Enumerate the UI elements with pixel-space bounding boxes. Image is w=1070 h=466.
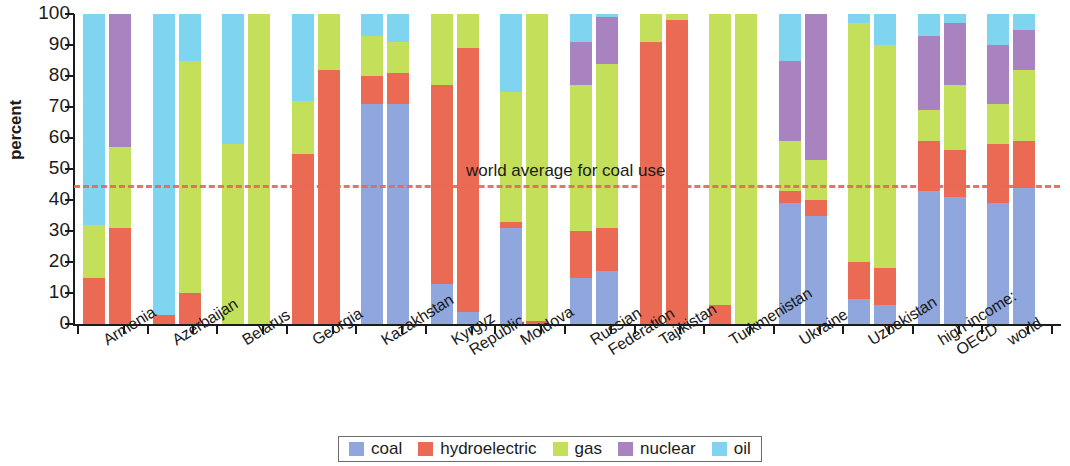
- bar-segment-gas: [848, 23, 870, 262]
- bar: [666, 14, 688, 324]
- bar-segment-gas: [944, 85, 966, 150]
- bar-segment-hydroelectric: [779, 191, 801, 203]
- legend-item-oil: oil: [712, 439, 751, 459]
- bar-segment-gas: [83, 225, 105, 278]
- bar-segment-gas: [179, 61, 201, 294]
- legend-item-hydroelectric: hydroelectric: [418, 439, 536, 459]
- bar-segment-hydroelectric: [83, 278, 105, 325]
- bar-segment-gas: [640, 14, 662, 42]
- bar-segment-coal: [944, 197, 966, 324]
- bar: [1013, 14, 1035, 324]
- bar-segment-oil: [292, 14, 314, 101]
- legend-swatch-oil: [712, 442, 727, 456]
- bar-segment-hydroelectric: [109, 228, 131, 324]
- bar-segment-gas: [596, 64, 618, 228]
- bar-segment-hydroelectric: [596, 228, 618, 271]
- bar-segment-oil: [361, 14, 383, 36]
- bar-segment-oil: [918, 14, 940, 36]
- bar-segment-oil: [83, 14, 105, 225]
- bar-segment-coal: [361, 104, 383, 324]
- bar: [779, 14, 801, 324]
- bar-segment-gas: [109, 147, 131, 228]
- x-tick-mark: [286, 325, 288, 334]
- y-tick-label: 100: [38, 3, 70, 23]
- bar: [431, 14, 453, 324]
- y-tick-label: 20: [49, 251, 70, 271]
- y-tick-label: 80: [49, 65, 70, 85]
- bar-segment-hydroelectric: [570, 231, 592, 278]
- bar-segment-coal: [805, 216, 827, 325]
- bar-segment-oil: [387, 14, 409, 42]
- bar-segment-hydroelectric: [387, 73, 409, 104]
- bar: [109, 14, 131, 324]
- y-tick-label: 30: [49, 220, 70, 240]
- bar-segment-hydroelectric: [874, 268, 896, 305]
- legend-item-coal: coal: [349, 439, 402, 459]
- bar-segment-gas: [666, 14, 688, 20]
- bar: [848, 14, 870, 324]
- y-tick-label: 90: [49, 34, 70, 54]
- bar-segment-gas: [248, 14, 270, 324]
- bar-segment-gas: [874, 45, 896, 268]
- bar-segment-oil: [500, 14, 522, 92]
- x-tick-mark: [216, 325, 218, 334]
- bar: [83, 14, 105, 324]
- bar: [987, 14, 1009, 324]
- bar-segment-nuclear: [918, 36, 940, 110]
- x-tick-mark: [564, 325, 566, 334]
- bar-segment-coal: [387, 104, 409, 324]
- reference-line-label: world average for coal use: [466, 161, 665, 181]
- y-tick-label: 70: [49, 96, 70, 116]
- bar-segment-gas: [1013, 70, 1035, 141]
- bar: [153, 14, 175, 324]
- bar: [318, 14, 340, 324]
- y-tick-label: 60: [49, 127, 70, 147]
- stacked-bar-chart: percent 0102030405060708090100 world ave…: [0, 0, 1070, 466]
- bar-segment-gas: [779, 141, 801, 191]
- legend-swatch-gas: [553, 442, 568, 456]
- bar-segment-nuclear: [1013, 30, 1035, 70]
- bar-segment-gas: [457, 14, 479, 48]
- bar-segment-gas: [500, 92, 522, 222]
- bar: [222, 14, 244, 324]
- bar-segment-gas: [361, 36, 383, 76]
- legend-label-oil: oil: [734, 439, 751, 459]
- x-tick-mark: [1051, 325, 1053, 334]
- chart-legend: coalhydroelectricgasnuclearoil: [338, 436, 762, 462]
- x-tick-mark: [912, 325, 914, 334]
- bar: [944, 14, 966, 324]
- x-tick-mark: [773, 325, 775, 334]
- bar-segment-hydroelectric: [987, 144, 1009, 203]
- bar-segment-hydroelectric: [918, 141, 940, 191]
- y-tick-label: 40: [49, 189, 70, 209]
- bar-segment-gas: [387, 42, 409, 73]
- bar: [874, 14, 896, 324]
- bar-segment-gas: [570, 85, 592, 231]
- bar-segment-oil: [944, 14, 966, 23]
- bar-segment-gas: [709, 14, 731, 305]
- bar: [179, 14, 201, 324]
- bar-segment-gas: [987, 104, 1009, 144]
- x-tick-mark: [425, 325, 427, 334]
- bar-segment-oil: [1013, 14, 1035, 30]
- legend-swatch-hydroelectric: [418, 442, 433, 456]
- bar-segment-hydroelectric: [640, 42, 662, 324]
- bar-segment-nuclear: [596, 17, 618, 64]
- bar-segment-gas: [805, 160, 827, 200]
- bar-segment-gas: [735, 14, 757, 324]
- x-tick-mark: [147, 325, 149, 334]
- x-tick-mark: [842, 325, 844, 334]
- bar-segment-hydroelectric: [1013, 141, 1035, 188]
- bar-segment-nuclear: [805, 14, 827, 160]
- bar-segment-nuclear: [109, 14, 131, 147]
- bar-segment-hydroelectric: [848, 262, 870, 299]
- y-axis-title: percent: [6, 70, 26, 190]
- legend-label-nuclear: nuclear: [640, 439, 696, 459]
- bar-segment-oil: [779, 14, 801, 61]
- legend-label-coal: coal: [371, 439, 402, 459]
- bar-segment-oil: [179, 14, 201, 61]
- plot-inner: 0102030405060708090100 world average for…: [74, 14, 1060, 324]
- bar: [735, 14, 757, 324]
- bar-segment-gas: [318, 14, 340, 70]
- x-tick-mark: [703, 325, 705, 334]
